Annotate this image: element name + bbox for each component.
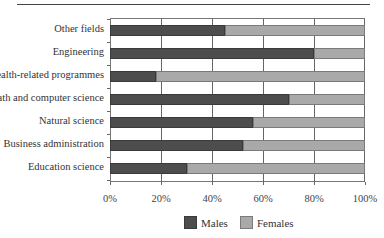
plot-area (110, 18, 365, 182)
x-tick-label: 0% (103, 193, 117, 204)
legend: Males Females (184, 216, 306, 229)
y-tick (107, 19, 110, 20)
bar-segment-males (110, 163, 187, 174)
y-tick (107, 157, 110, 158)
bar-segment-females (225, 25, 365, 36)
bar-row (110, 117, 365, 128)
x-axis (110, 181, 365, 182)
x-tick (212, 182, 213, 185)
legend-label-females: Females (257, 217, 294, 229)
x-tick (263, 182, 264, 185)
bar-segment-females (243, 140, 365, 151)
category-label: Other fields (54, 23, 104, 34)
bar-segment-males (110, 71, 156, 82)
females-swatch (240, 216, 253, 229)
bar-row (110, 163, 365, 174)
bar-segment-females (314, 48, 365, 59)
x-tick (110, 182, 111, 185)
x-tick (161, 182, 162, 185)
bar-segment-females (289, 94, 366, 105)
category-label: Natural science (39, 115, 104, 126)
males-swatch (184, 216, 197, 229)
x-tick-label: 100% (353, 193, 378, 204)
bar-segment-females (156, 71, 365, 82)
y-tick (107, 65, 110, 66)
bar-segment-females (187, 163, 366, 174)
bar-row (110, 140, 365, 151)
x-tick-label: 20% (151, 193, 170, 204)
x-tick (365, 182, 366, 185)
y-tick (107, 111, 110, 112)
y-tick (107, 134, 110, 135)
x-tick-label: 60% (253, 193, 272, 204)
bar-row (110, 94, 365, 105)
bar-segment-males (110, 94, 289, 105)
bar-segment-males (110, 48, 314, 59)
x-tick-label: 40% (202, 193, 221, 204)
y-tick (107, 42, 110, 43)
bar-segment-males (110, 117, 253, 128)
bar-segment-females (253, 117, 365, 128)
category-label: Health-related programmes (0, 69, 104, 80)
category-label: Business administration (3, 138, 104, 149)
bar-segment-males (110, 140, 243, 151)
category-label: Engineering (53, 46, 104, 57)
category-label: Education science (28, 161, 104, 172)
category-label: Math and computer science (0, 92, 104, 103)
y-tick (107, 88, 110, 89)
x-tick-label: 80% (304, 193, 323, 204)
legend-item-females: Females (240, 216, 294, 229)
bar-segment-males (110, 25, 225, 36)
legend-label-males: Males (201, 217, 228, 229)
x-tick (314, 182, 315, 185)
legend-item-males: Males (184, 216, 228, 229)
bar-row (110, 48, 365, 59)
bar-row (110, 25, 365, 36)
top-rule (17, 4, 370, 5)
y-tick (107, 180, 110, 181)
bar-row (110, 71, 365, 82)
